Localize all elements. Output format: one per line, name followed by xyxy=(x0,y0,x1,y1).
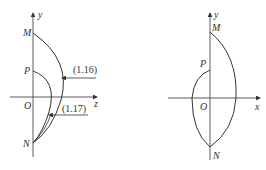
left-point-m: M xyxy=(22,27,32,38)
right-x-label: x xyxy=(254,101,260,112)
left-origin: O xyxy=(24,100,31,111)
label-1-16: (1.16) xyxy=(73,64,97,76)
left-point-p: P xyxy=(23,65,30,76)
inner-arc-pn-2 xyxy=(33,114,51,143)
left-point-n: N xyxy=(22,138,31,149)
right-point-p: P xyxy=(199,58,206,69)
right-arc-mn xyxy=(210,32,236,147)
outer-arc-mn xyxy=(33,33,63,143)
right-point-m: M xyxy=(211,22,221,33)
label-1-17: (1.17) xyxy=(62,103,86,115)
right-origin: O xyxy=(200,101,207,112)
diagram-canvas: y z M P O N (1.16) (1.17) y x M P O N xyxy=(0,0,266,170)
right-y-label: y xyxy=(213,9,219,20)
left-y-label: y xyxy=(37,9,43,20)
right-point-n: N xyxy=(212,150,221,161)
left-figure: y z M P O N (1.16) (1.17) xyxy=(10,9,98,157)
left-z-label: z xyxy=(93,98,98,109)
right-figure: y x M P O N xyxy=(168,9,260,161)
